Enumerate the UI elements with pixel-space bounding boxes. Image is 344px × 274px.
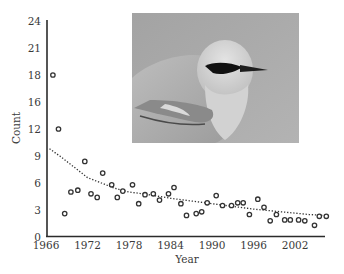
- y-tick-label: 21: [28, 42, 41, 54]
- data-point-marker: [121, 189, 125, 193]
- y-tick-label: 9: [34, 150, 41, 162]
- x-tick-label: 1984: [157, 239, 184, 251]
- data-point-marker: [303, 219, 307, 223]
- data-point-marker: [317, 214, 321, 218]
- data-point-marker: [69, 190, 73, 194]
- trend-line: [50, 149, 323, 216]
- data-point-marker: [95, 195, 99, 199]
- data-point-marker: [62, 211, 66, 215]
- y-tick-label: 24: [28, 15, 42, 27]
- data-point-marker: [200, 210, 204, 214]
- x-tick-label: 1990: [199, 239, 226, 251]
- data-point-marker: [110, 183, 114, 187]
- data-point-marker: [312, 223, 316, 227]
- data-point-marker: [288, 218, 292, 222]
- data-point-marker: [51, 73, 55, 77]
- data-point-marker: [76, 188, 80, 192]
- data-point-marker: [241, 201, 245, 205]
- data-point-marker: [256, 197, 260, 201]
- x-tick-label: 1996: [240, 239, 267, 251]
- data-point-marker: [157, 198, 161, 202]
- y-tick-label: 16: [28, 96, 42, 108]
- x-tick-label: 1966: [33, 239, 60, 251]
- data-point-marker: [130, 183, 134, 187]
- data-point-marker: [283, 218, 287, 222]
- y-tick-label: 18: [28, 69, 41, 81]
- x-axis-title: Year: [174, 253, 199, 265]
- x-tick-label: 1972: [74, 239, 101, 251]
- data-point-marker: [205, 201, 209, 205]
- x-tick-label: 2002: [282, 239, 309, 251]
- y-axis-title: Count: [10, 111, 22, 144]
- data-point-marker: [220, 203, 224, 207]
- data-point-marker: [262, 205, 266, 209]
- data-point-marker: [296, 218, 300, 222]
- data-point-marker: [214, 193, 218, 197]
- y-tick-label: 6: [34, 177, 41, 189]
- bird-photo: [132, 13, 299, 143]
- data-point-marker: [56, 127, 60, 131]
- data-point-marker: [166, 192, 170, 196]
- data-point-marker: [143, 193, 147, 197]
- chart-figure: 03691216182124 1966197219781984199019962…: [0, 0, 344, 274]
- data-point-marker: [268, 219, 272, 223]
- data-point-marker: [247, 212, 251, 216]
- data-point-marker: [184, 213, 188, 217]
- data-point-marker: [137, 202, 141, 206]
- data-point-marker: [324, 214, 328, 218]
- data-point-marker: [101, 171, 105, 175]
- y-tick-label: 3: [34, 204, 41, 216]
- data-point-marker: [194, 211, 198, 215]
- scatter-chart: 03691216182124 1966197219781984199019962…: [0, 0, 344, 274]
- data-point-marker: [274, 212, 278, 216]
- x-tick-labels: 1966197219781984199019962002: [33, 239, 309, 251]
- data-point-marker: [89, 192, 93, 196]
- data-point-marker: [83, 159, 87, 163]
- y-tick-labels: 03691216182124: [28, 15, 42, 243]
- y-tick-label: 12: [28, 123, 41, 135]
- data-point-marker: [179, 202, 183, 206]
- data-point-marker: [115, 195, 119, 199]
- x-tick-label: 1978: [116, 239, 143, 251]
- data-point-marker: [236, 201, 240, 205]
- data-point-marker: [229, 203, 233, 207]
- data-point-marker: [172, 185, 176, 189]
- data-point-marker: [151, 192, 155, 196]
